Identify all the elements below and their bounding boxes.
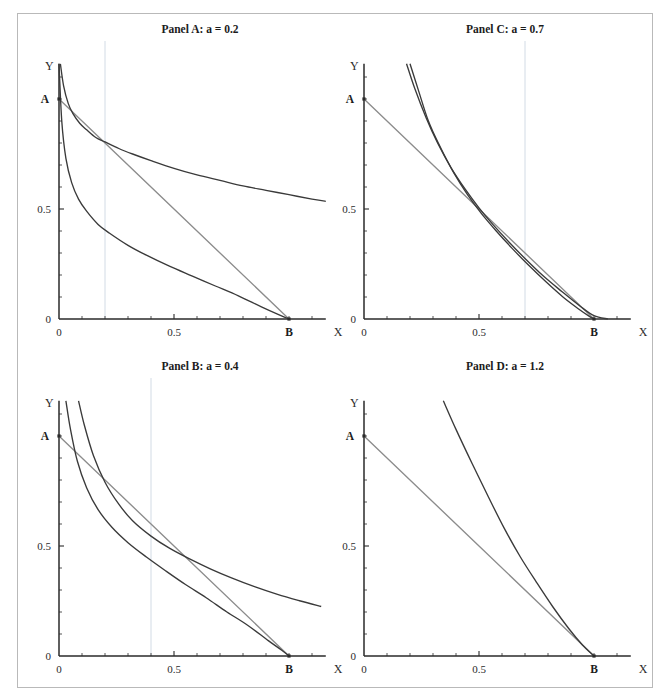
series-budget-line bbox=[364, 436, 594, 656]
y-tick-label-0: 0 bbox=[46, 313, 52, 325]
panel-title: Panel D: a = 1.2 bbox=[466, 360, 544, 372]
x-tick-label-05: 0.5 bbox=[472, 326, 486, 338]
series-upper-curve bbox=[407, 64, 608, 319]
series-budget-line bbox=[364, 99, 594, 319]
x-axis-label: X bbox=[639, 325, 648, 339]
x-axis-label: X bbox=[639, 662, 648, 676]
x-tick-label-0: 0 bbox=[361, 663, 367, 675]
point-b-label: B bbox=[590, 326, 598, 338]
y-axis-label: Y bbox=[45, 396, 54, 410]
panel-title: Panel B: a = 0.4 bbox=[161, 360, 238, 372]
point-b-label: B bbox=[285, 663, 293, 675]
x-tick-label-05: 0.5 bbox=[167, 326, 181, 338]
point-b-label: B bbox=[590, 663, 598, 675]
point-a-label: A bbox=[346, 93, 355, 105]
series-budget-line bbox=[59, 99, 289, 319]
y-tick-label-0: 0 bbox=[46, 650, 52, 662]
x-tick-label-05: 0.5 bbox=[472, 663, 486, 675]
y-axis-label: Y bbox=[350, 396, 359, 410]
figure-root: Panel A: a = 0.200.500.5YXAB Panel C: a … bbox=[0, 0, 670, 700]
x-tick-label-0: 0 bbox=[56, 326, 62, 338]
x-tick-label-0: 0 bbox=[56, 663, 62, 675]
series-upper-curve bbox=[443, 401, 594, 656]
panel-plot-a: Panel A: a = 0.200.500.5YXAB bbox=[17, 13, 347, 350]
panel-c: Panel C: a = 0.700.500.5YXAB bbox=[322, 13, 652, 350]
panel-title: Panel C: a = 0.7 bbox=[466, 23, 544, 35]
y-tick-label-05: 0.5 bbox=[37, 203, 51, 215]
panel-plot-b: Panel B: a = 0.400.500.5YXAB bbox=[17, 350, 347, 687]
panel-plot-d: Panel D: a = 1.200.500.5YXAB bbox=[322, 350, 652, 687]
y-tick-label-05: 0.5 bbox=[37, 540, 51, 552]
series-upper-curve bbox=[79, 401, 322, 607]
y-tick-label-05: 0.5 bbox=[342, 203, 356, 215]
panel-d: Panel D: a = 1.200.500.5YXAB bbox=[322, 350, 652, 687]
point-b-label: B bbox=[285, 326, 293, 338]
x-tick-label-0: 0 bbox=[361, 326, 367, 338]
series-budget-line bbox=[59, 436, 289, 656]
series-lower-curve bbox=[59, 64, 289, 319]
panel-plot-c: Panel C: a = 0.700.500.5YXAB bbox=[322, 13, 652, 350]
y-axis-label: Y bbox=[350, 59, 359, 73]
point-a-label: A bbox=[346, 430, 355, 442]
panel-a: Panel A: a = 0.200.500.5YXAB bbox=[17, 13, 347, 350]
y-axis-label: Y bbox=[45, 59, 54, 73]
y-tick-label-0: 0 bbox=[351, 313, 357, 325]
y-tick-label-05: 0.5 bbox=[342, 540, 356, 552]
y-tick-label-0: 0 bbox=[351, 650, 357, 662]
point-a-label: A bbox=[41, 93, 50, 105]
series-lower-curve bbox=[410, 64, 594, 319]
panel-title: Panel A: a = 0.2 bbox=[161, 23, 238, 35]
series-upper-curve bbox=[60, 64, 325, 202]
point-a-label: A bbox=[41, 430, 50, 442]
panel-b: Panel B: a = 0.400.500.5YXAB bbox=[17, 350, 347, 687]
series-lower-curve bbox=[66, 401, 289, 656]
x-tick-label-05: 0.5 bbox=[167, 663, 181, 675]
